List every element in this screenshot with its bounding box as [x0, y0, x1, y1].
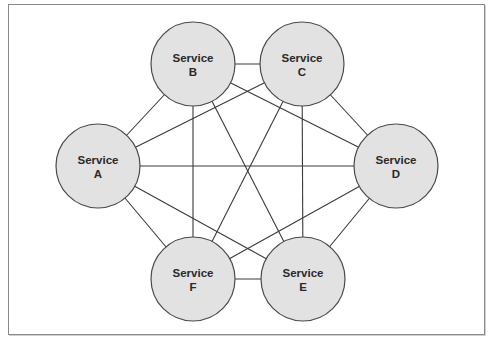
node-label-line1: Service: [376, 154, 417, 166]
node-label-line1: Service: [283, 267, 324, 279]
service-node-d: ServiceD: [354, 124, 438, 208]
node-circle: [261, 237, 345, 321]
service-mesh-diagram: ServiceAServiceBServiceCServiceDServiceE…: [0, 0, 493, 341]
node-label-line2: B: [189, 66, 197, 78]
node-circle: [354, 124, 438, 208]
node-circle: [151, 22, 235, 106]
service-node-f: ServiceF: [151, 237, 235, 321]
node-label-line1: Service: [173, 52, 214, 64]
node-label-line1: Service: [282, 52, 323, 64]
node-label-line2: C: [298, 66, 306, 78]
node-circle: [260, 22, 344, 106]
node-circle: [151, 237, 235, 321]
node-circle: [56, 124, 140, 208]
service-node-e: ServiceE: [261, 237, 345, 321]
service-node-a: ServiceA: [56, 124, 140, 208]
node-label-line2: A: [94, 168, 102, 180]
service-node-b: ServiceB: [151, 22, 235, 106]
node-label-line2: D: [392, 168, 400, 180]
node-label-line1: Service: [78, 154, 119, 166]
edges-layer: [98, 64, 396, 279]
node-label-line1: Service: [173, 267, 214, 279]
node-label-line2: E: [299, 281, 307, 293]
service-node-c: ServiceC: [260, 22, 344, 106]
node-label-line2: F: [189, 281, 196, 293]
